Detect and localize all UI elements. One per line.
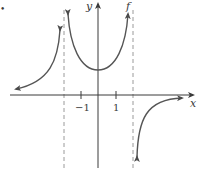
x-axis-label: x [190,97,197,110]
y-axis-label: y [85,0,93,13]
function-label: f [125,0,132,13]
curve-left-branch [16,30,60,89]
tick-label-pos1: 1 [113,102,119,113]
function-graph: • −1 1 x y f [0,0,198,169]
curve-right-branch [137,98,182,157]
problem-marker: • [0,4,5,14]
tick-label-neg1: −1 [75,102,90,113]
